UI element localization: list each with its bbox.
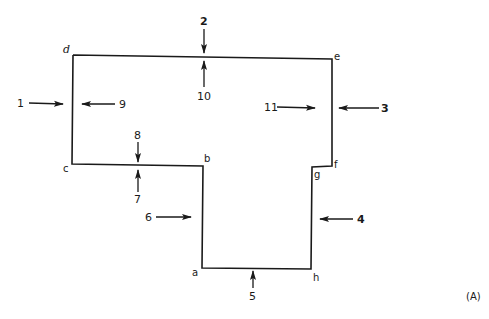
arrow-1: 1 — [17, 97, 63, 110]
arrow-4-label: 4 — [357, 213, 365, 226]
corner-label-a: a — [192, 267, 198, 278]
corner-label-h: h — [313, 272, 319, 283]
arrow-9: 9 — [82, 98, 126, 111]
corner-label-c: c — [63, 163, 69, 174]
arrow-2-label: 2 — [200, 15, 208, 28]
arrow-10: 10 — [197, 61, 211, 103]
arrow-8-label: 8 — [134, 129, 141, 142]
corner-label-d: d — [63, 43, 70, 56]
arrow-6: 6 — [145, 211, 191, 224]
arrow-8: 8 — [134, 129, 141, 162]
arrow-3-label: 3 — [381, 102, 389, 115]
arrow-7: 7 — [134, 170, 141, 206]
arrow-7-label: 7 — [134, 193, 141, 206]
arrow-9-label: 9 — [119, 98, 126, 111]
arrow-6-label: 6 — [145, 211, 152, 224]
arrow-11: 11 — [264, 101, 315, 114]
arrow-4: 4 — [320, 213, 365, 226]
corner-label-e: e — [334, 51, 340, 62]
arrow-11-label: 11 — [264, 101, 278, 114]
arrow-2: 2 — [200, 15, 208, 53]
figure-label: (A) — [466, 291, 481, 302]
shape-outline — [72, 55, 332, 269]
corner-label-b: b — [204, 153, 210, 164]
arrow-10-label: 10 — [197, 90, 211, 103]
corner-label-g: g — [314, 169, 320, 180]
arrow-1-label: 1 — [17, 97, 24, 110]
arrow-3: 3 — [339, 102, 389, 115]
arrow-5-label: 5 — [249, 290, 256, 303]
arrow-5: 5 — [249, 271, 256, 303]
corner-label-f: f — [334, 159, 338, 170]
t-shape-diagram: d e f g h a b c 1 9 2 10 11 3 8 7 — [0, 0, 489, 319]
